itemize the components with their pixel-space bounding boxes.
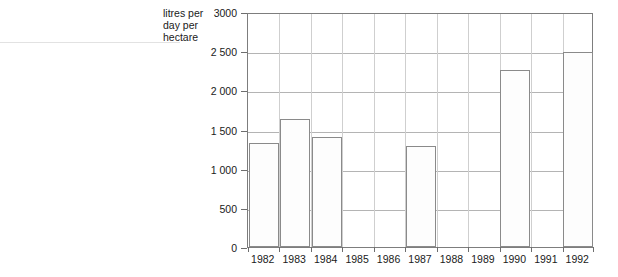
plot-area xyxy=(247,13,593,248)
x-axis-label-1987: 1987 xyxy=(404,253,435,265)
x-axis-label-1984: 1984 xyxy=(310,253,341,265)
x-axis-tick xyxy=(593,247,594,252)
y-axis-tick-label: 500 xyxy=(219,204,237,215)
category-separator xyxy=(468,14,469,247)
x-axis-tick xyxy=(311,247,312,252)
bar-1992 xyxy=(563,52,593,247)
gridline xyxy=(248,92,592,93)
x-axis-tick xyxy=(468,247,469,252)
gridline xyxy=(248,53,592,54)
x-axis-label-1988: 1988 xyxy=(436,253,467,265)
bar-1982 xyxy=(249,143,279,247)
y-axis-tick-labels: 05001 0001 5002 0002 5003000 xyxy=(0,13,247,248)
category-separator xyxy=(342,14,343,247)
x-axis-tick xyxy=(500,247,501,252)
x-axis-label-1991: 1991 xyxy=(530,253,561,265)
category-separator xyxy=(531,14,532,247)
category-separator xyxy=(437,14,438,247)
y-axis-tick-label: 2 000 xyxy=(211,86,237,97)
x-axis-label-1986: 1986 xyxy=(373,253,404,265)
bar-1983 xyxy=(280,119,310,247)
x-axis-tick xyxy=(531,247,532,252)
x-axis-label-1985: 1985 xyxy=(341,253,372,265)
x-axis-label-1983: 1983 xyxy=(278,253,309,265)
x-axis-label-1990: 1990 xyxy=(499,253,530,265)
bar-1990 xyxy=(500,70,530,247)
bar-chart: litres per day per hectare 05001 0001 50… xyxy=(0,0,618,277)
bar-1987 xyxy=(406,146,436,247)
x-axis-label-1989: 1989 xyxy=(467,253,498,265)
x-axis-tick xyxy=(563,247,564,252)
x-axis-label-1992: 1992 xyxy=(562,253,593,265)
x-axis-label-1982: 1982 xyxy=(247,253,278,265)
x-axis-tick xyxy=(248,247,249,252)
x-axis-tick xyxy=(279,247,280,252)
y-axis-tick-label: 2 500 xyxy=(211,47,237,58)
x-axis-tick xyxy=(374,247,375,252)
y-axis-tick-label: 1 500 xyxy=(211,126,237,137)
y-axis-tick xyxy=(241,248,247,249)
x-axis-tick xyxy=(405,247,406,252)
x-axis-tick xyxy=(437,247,438,252)
x-axis-tick xyxy=(342,247,343,252)
y-axis-tick-label: 0 xyxy=(231,243,237,254)
y-axis-tick-label: 1 000 xyxy=(211,165,237,176)
category-separator xyxy=(374,14,375,247)
x-axis-tick-labels: 1982198319841985198619871988198919901991… xyxy=(247,253,593,269)
y-axis-tick-label: 3000 xyxy=(214,8,237,19)
bar-1984 xyxy=(312,137,342,247)
